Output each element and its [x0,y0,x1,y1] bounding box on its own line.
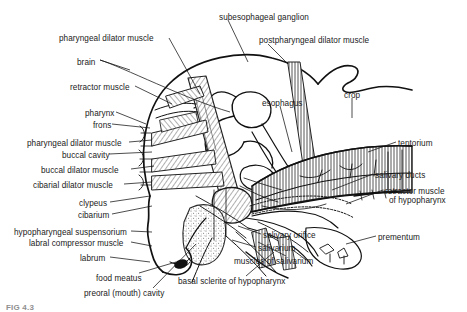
label-basal-sclerite-of-hypopharynx: basal sclerite of hypopharynx [178,277,286,287]
label-pharyngeal-dilator-muscle: pharyngeal dilator muscle [59,34,154,44]
label-salivarium: salivarium [258,244,295,254]
label-pharyngeal-dilator-muscle: pharyngeal dilator muscle [27,139,122,149]
label-crop: crop [344,91,360,101]
label-muscles-of-salivarium: muscles of salivarium [234,257,313,267]
label-hypopharyngeal-suspensorium: hypopharyngeal suspensorium [14,228,127,238]
label-cibarial-dilator-muscle: cibarial dilator muscle [33,181,113,191]
label-esophagus: esophagus [262,99,303,109]
label-of-hypopharynx: of hypopharynx [389,196,446,206]
label-frons: frons [93,121,111,131]
figure-caption: FIG 4.3 [6,303,34,312]
label-salivary-ducts: salivary ducts [375,171,425,181]
label-subesophageal-ganglion: subesophageal ganglion [219,13,309,23]
label-tentorium: tentorium [398,139,433,149]
label-prementum: prementum [378,233,420,243]
label-clypeus: clypeus [79,199,107,209]
label-pharynx: pharynx [85,109,114,119]
label-retractor-muscle: retractor muscle [70,83,130,93]
label-buccal-cavity: buccal cavity [62,151,110,161]
label-buccal-dilator-muscle: buccal dilator muscle [41,166,119,176]
figure-canvas: pharyngeal dilator musclebrainretractor … [0,0,467,312]
label-food-meatus: food meatus [96,274,142,284]
label-labral-compressor-muscle: labral compressor muscle [29,239,123,249]
label-labrum: labrum [80,254,105,264]
label-preoral-mouth-cavity: preoral (mouth) cavity [84,289,164,299]
label-cibarium: cibarium [78,211,109,221]
label-brain: brain [77,58,95,68]
label-salivary-orifice: salivary orifice [263,231,316,241]
label-postpharyngeal-dilator-muscle: postpharyngeal dilator muscle [259,36,369,46]
